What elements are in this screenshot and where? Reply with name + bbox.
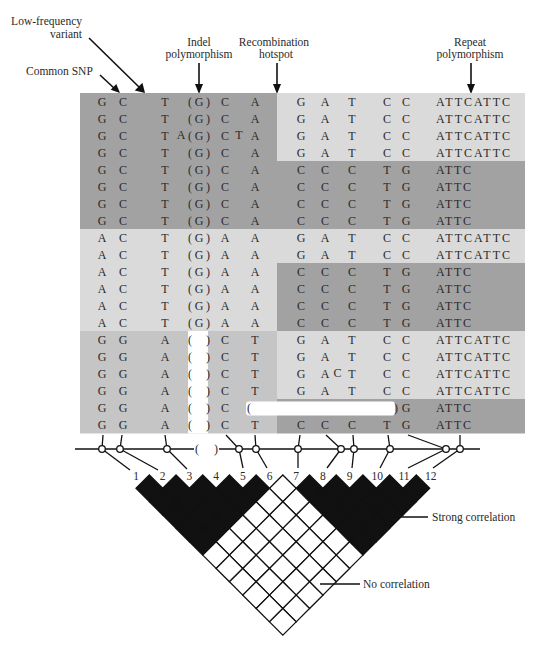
repeat-allele: ATTC [436,214,471,228]
haplotype-band-left [80,144,277,162]
allele: G [402,197,411,211]
haplotype-band-left [80,229,277,247]
haplotype-row: GCT(G)CAGATCCATTCATTC [80,144,525,162]
indel-allele: (G) [188,95,210,109]
allele: T [348,231,356,245]
indel-allele: ( ) [188,367,210,381]
allele: G [119,418,128,432]
allele: C [221,384,229,398]
allele: C [119,248,127,262]
haplotype-row: ACT(G)AACCCTGATTC [80,297,525,315]
haplotype-band-left [80,263,277,281]
allele: C [383,248,391,262]
allele: A [251,265,260,279]
haplotype-band-left [80,195,277,213]
marker-number-label: 10 [372,470,384,482]
allele: C [402,333,410,347]
allele: A [321,146,330,160]
allele: G [98,129,107,143]
marker-circle-icon [164,446,171,453]
repeat-allele: ATTCATTC [436,112,510,126]
indel-allele: (G) [188,316,210,330]
haplotype-row: GGA( )CTGATCCATTCATTCC [80,365,525,383]
haplotype-row: GGA( )CTGATCCATTCATTC [80,348,525,366]
allele: C [348,214,356,228]
indel-allele: (G) [188,163,210,177]
haplotype-row: ACT(G)AAGATCCATTCATTC [80,246,525,264]
allele: A [251,231,260,245]
allele: G [98,146,107,160]
haplotype-row: GGA( )CTCCCTGATTC [80,416,525,434]
allele: C [383,112,391,126]
haplotype-band-left [80,382,277,400]
allele: T [383,214,391,228]
allele: G [119,350,128,364]
allele: A [221,299,230,313]
deletion-open-paren: ( [247,401,251,415]
allele: T [383,418,391,432]
haplotype-band-left [80,416,277,434]
allele: T [161,248,169,262]
common-snp-label: Common SNP [26,65,93,77]
allele: A [161,384,170,398]
allele: C [119,146,127,160]
indel-polymorphism-label-line1: Indel [187,36,211,48]
allele: C [321,214,329,228]
allele: C [221,95,229,109]
haplotype-row: ACT(G)AAGATCCATTCATTC [80,229,525,247]
haplotype-ld-figure: Low-frequency variant Common SNP Indel p… [0,0,537,647]
allele: C [402,95,410,109]
allele: T [383,197,391,211]
haplotype-band-left [80,348,277,366]
repeat-allele: ATTC [436,418,471,432]
allele: C [221,197,229,211]
allele: G [98,95,107,109]
repeat-allele: ATTCATTC [436,231,510,245]
allele: C [383,95,391,109]
haplotype-band-left [80,314,277,332]
allele: C [221,163,229,177]
allele: T [348,129,356,143]
marker-number-label: 3 [187,470,193,482]
allele: C [321,197,329,211]
marker-number-label: 6 [267,470,273,482]
marker-number-label: 5 [240,470,246,482]
allele: C [119,112,127,126]
allele: G [98,197,107,211]
allele: C [221,180,229,194]
allele: T [348,248,356,262]
allele: C [321,265,329,279]
haplotype-row: GCT(G)CAGATCCATTCATTC [80,110,525,128]
allele: C [297,197,305,211]
repeat-allele: ATTCATTC [436,367,510,381]
haplotype-band-left [80,93,277,111]
repeat-allele: ATTC [436,316,471,330]
allele: A [251,316,260,330]
allele: A [221,265,230,279]
haplotype-band-left [80,161,277,179]
allele: A [221,231,230,245]
allele: G [119,384,128,398]
haplotype-row: GGA( )CTGATCCATTCATTC [80,382,525,400]
allele: A [251,248,260,262]
allele: C [348,180,356,194]
allele: G [402,401,411,415]
allele: T [161,316,169,330]
allele: C [119,231,127,245]
allele: C [221,129,229,143]
allele: A [321,248,330,262]
allele: G [297,129,306,143]
indel-allele: ( ) [188,333,210,347]
allele: T [383,299,391,313]
allele: A [321,350,330,364]
allele: G [297,333,306,347]
allele: G [98,401,107,415]
marker-number-label: 11 [398,470,409,482]
marker-number-label: 4 [213,470,219,482]
indel-allele: (G) [188,129,210,143]
allele: C [402,129,410,143]
allele: A [321,129,330,143]
haplotype-row: GCT(G)CACCCTGATTC [80,212,525,230]
allele: C [297,265,305,279]
allele: A [251,129,260,143]
